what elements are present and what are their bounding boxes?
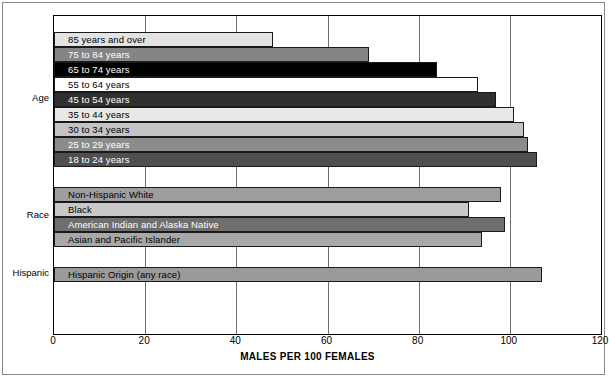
- x-tick-label-20: 20: [139, 335, 150, 346]
- group-label-hispanic: Hispanic: [13, 267, 49, 278]
- bar-label: Hispanic Origin (any race): [68, 267, 180, 282]
- bar-label: 35 to 44 years: [68, 107, 130, 122]
- x-axis-tick-labels: 020406080100120: [53, 333, 600, 349]
- bar-label: 55 to 64 years: [68, 77, 130, 92]
- bar-label: 45 to 54 years: [68, 92, 130, 107]
- bar-label: Non-Hispanic White: [68, 187, 154, 202]
- x-tick-label-60: 60: [321, 335, 332, 346]
- bar-label: 85 years and over: [68, 32, 146, 47]
- bar-label: 65 to 74 years: [68, 62, 130, 77]
- chart-frame: 85 years and over75 to 84 years65 to 74 …: [2, 2, 605, 375]
- gridline-100: [510, 16, 511, 334]
- bar-label: 30 to 34 years: [68, 122, 130, 137]
- group-label-age: Age: [32, 92, 49, 103]
- bar-label: American Indian and Alaska Native: [68, 217, 219, 232]
- bar-label: 25 to 29 years: [68, 137, 130, 152]
- x-tick-label-0: 0: [50, 335, 56, 346]
- x-axis-title: MALES PER 100 FEMALES: [3, 351, 609, 362]
- plot-area: 85 years and over75 to 84 years65 to 74 …: [53, 15, 602, 335]
- bar-label: Asian and Pacific Islander: [68, 232, 180, 247]
- x-tick-label-120: 120: [592, 335, 609, 346]
- bar-label: 18 to 24 years: [68, 152, 130, 167]
- bar: [54, 202, 469, 217]
- bar-label: 75 to 84 years: [68, 47, 130, 62]
- bar-label: Black: [68, 202, 92, 217]
- x-tick-label-40: 40: [230, 335, 241, 346]
- group-label-race: Race: [27, 209, 49, 220]
- x-tick-label-80: 80: [412, 335, 423, 346]
- x-tick-label-100: 100: [500, 335, 517, 346]
